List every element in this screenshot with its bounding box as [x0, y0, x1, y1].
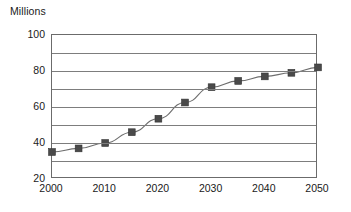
- chart-container: Millions 10080604020 2000201020202030204…: [0, 0, 351, 212]
- x-tick-label: 2020: [146, 182, 169, 194]
- x-tick-label: 2050: [305, 182, 328, 194]
- x-axis-labels: 200020102020203020402050: [0, 0, 351, 212]
- x-tick-label: 2010: [93, 182, 116, 194]
- x-tick-label: 2030: [199, 182, 222, 194]
- x-tick-label: 2040: [252, 182, 275, 194]
- x-tick-label: 2000: [39, 182, 62, 194]
